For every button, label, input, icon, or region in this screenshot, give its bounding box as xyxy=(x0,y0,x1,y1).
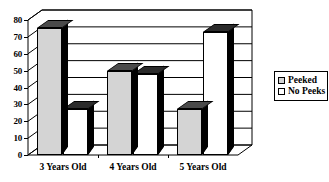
bar-side-face xyxy=(132,62,138,155)
x-tick-mark xyxy=(98,155,99,158)
bar-side-face xyxy=(228,23,234,155)
bar-peeked-3-years-old xyxy=(37,28,62,155)
bar-side-face xyxy=(202,101,208,155)
bar-peeked-5-years-old xyxy=(177,109,202,155)
x-axis-label: 3 Years Old xyxy=(28,162,98,172)
bar-front-face xyxy=(177,109,202,155)
legend-swatch-no-peeks xyxy=(278,88,285,95)
chart-legend: Peeked No Peeks xyxy=(274,71,328,101)
x-axis-label: 5 Years Old xyxy=(168,162,238,172)
legend-item-peeked: Peeked xyxy=(278,76,323,86)
bar-front-face xyxy=(107,71,132,155)
bar-front-face xyxy=(37,28,62,155)
bar-peeked-4-years-old xyxy=(107,71,132,155)
legend-label-no-peeks: No Peeks xyxy=(288,87,325,97)
x-tick-mark xyxy=(168,155,169,158)
legend-item-no-peeks: No Peeks xyxy=(278,87,323,97)
bar-side-face xyxy=(88,101,94,155)
legend-label-peeked: Peeked xyxy=(288,76,317,86)
x-axis-label: 4 Years Old xyxy=(98,162,168,172)
bar-chart: 01020304050607080 3 Years Old4 Years Old… xyxy=(0,0,329,182)
legend-swatch-peeked xyxy=(278,77,285,84)
bar-side-face xyxy=(158,65,164,155)
bar-side-face xyxy=(62,20,68,155)
